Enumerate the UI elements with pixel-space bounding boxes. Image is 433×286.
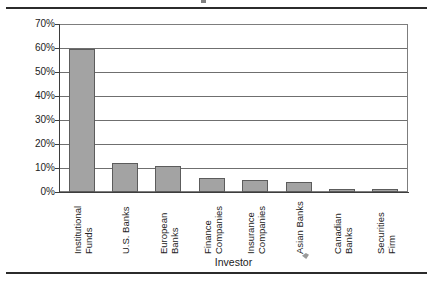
- x-axis-tick-label-text: SecuritiesFirm: [376, 212, 397, 254]
- bar: [155, 166, 181, 192]
- y-axis-tick-group: 0%10%20%30%40%50%60%70%: [0, 0, 55, 286]
- x-axis-tick-label-text: CanadianBanks: [333, 213, 354, 254]
- bar: [112, 163, 138, 192]
- y-axis-tick-label: 20%: [3, 139, 55, 149]
- x-axis-tick-label-text: EuropeanBanks: [159, 213, 180, 254]
- y-axis-tick-label: 0%: [3, 187, 55, 197]
- bar: [329, 189, 355, 192]
- y-axis-tick-label: 40%: [3, 91, 55, 101]
- x-axis-tick-label-text: U.S. Banks: [121, 206, 132, 254]
- x-axis-tick-label-text: FinanceCompanies: [203, 206, 224, 254]
- x-axis-tick-label-text: InsuranceCompanies: [246, 206, 267, 254]
- y-axis-tick-label: 70%: [3, 19, 55, 29]
- page-rule-top: [6, 7, 427, 9]
- bar: [372, 189, 398, 192]
- y-axis-tick-label: 50%: [3, 67, 55, 77]
- scan-artifact-top: [201, 0, 206, 3]
- bar: [199, 178, 225, 192]
- x-axis-tick-label-group: InstitutionalFundsU.S. BanksEuropeanBank…: [59, 194, 408, 256]
- page-rule-bottom: [6, 272, 427, 274]
- x-axis-tick-label-text: Asian Banks: [295, 201, 306, 254]
- x-axis-tick-label-text: InstitutionalFunds: [73, 206, 94, 254]
- y-axis-tick-label: 10%: [3, 163, 55, 173]
- x-axis-title: Investor: [59, 256, 408, 268]
- bar: [242, 180, 268, 192]
- y-axis-tick-label: 30%: [3, 115, 55, 125]
- bar-chart-figure: 0%10%20%30%40%50%60%70% InstitutionalFun…: [0, 0, 433, 286]
- bar-group: [60, 25, 407, 192]
- bar: [286, 182, 312, 192]
- bar: [69, 49, 95, 192]
- y-axis-tick-label: 60%: [3, 43, 55, 53]
- x-axis-line: [59, 192, 409, 193]
